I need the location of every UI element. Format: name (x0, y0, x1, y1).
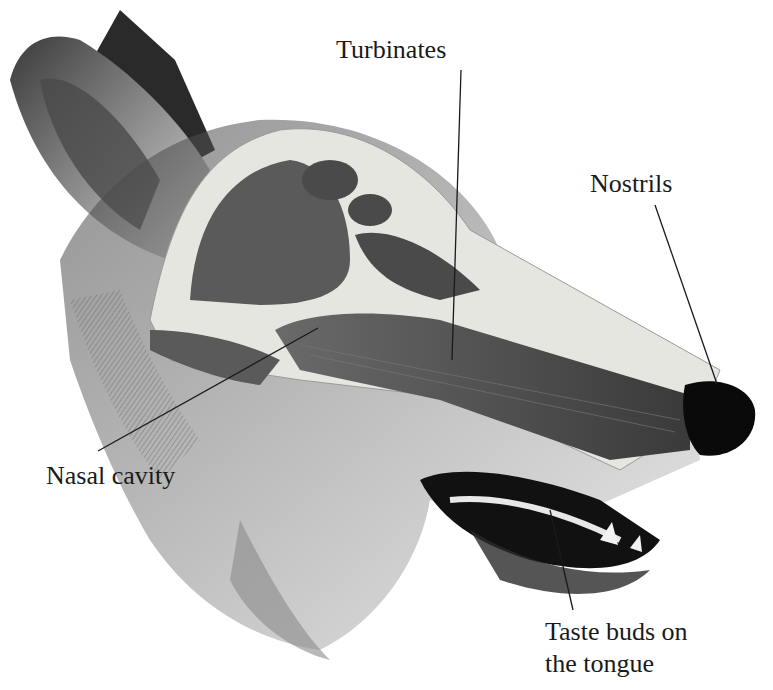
label-turbinates: Turbinates (336, 34, 446, 66)
label-nasal-cavity: Nasal cavity (46, 460, 175, 492)
nose (683, 381, 755, 456)
label-nostrils: Nostrils (590, 168, 672, 200)
wolf-head-illustration (0, 0, 773, 690)
label-taste-buds-line1: Taste buds on (545, 616, 688, 648)
label-taste-buds-line2: the tongue (545, 648, 688, 680)
label-taste-buds: Taste buds on the tongue (545, 616, 688, 680)
